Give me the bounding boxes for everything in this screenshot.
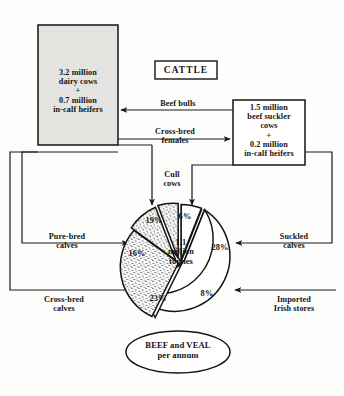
pie-label-23: 23% xyxy=(144,294,172,303)
cull-cows-suckler-arrow xyxy=(192,165,233,205)
pie-label-8: 8% xyxy=(196,289,218,298)
suckled-calves-label: Suckled calves xyxy=(255,232,333,250)
beef-bulls-label: Beef bulls xyxy=(133,99,223,108)
pie-label-16: 16% xyxy=(124,249,150,258)
dairy-herd-label: 3.2 million dairy cows + 0.7 million in-… xyxy=(38,68,118,114)
cross-bred-females-label: Cross-bred females xyxy=(130,127,220,145)
output-oval-label: BEEF and VEAL per annum xyxy=(126,341,230,360)
cull-cows-label: Cull cows xyxy=(149,170,195,188)
pure-bred-calves-path xyxy=(22,152,128,243)
pure-bred-calves-label: Pure-bred calves xyxy=(27,232,107,250)
suckler-herd-label: 1.5 million beef suckler cows + 0.2 mill… xyxy=(233,103,305,158)
pie-label-19: 19% xyxy=(140,216,168,225)
cattle-beef-flow-diagram: 3.2 million dairy cows + 0.7 million in-… xyxy=(0,0,344,396)
imported-irish-stores-label: Imported Irish stores xyxy=(249,295,339,313)
cattle-title-label: CATTLE xyxy=(155,65,217,76)
pie-label-28: 28% xyxy=(206,243,234,252)
pie-label-6: 6% xyxy=(172,212,198,221)
diagram-vector-layer xyxy=(0,0,344,396)
cross-bred-calves-label: Cross-bred calves xyxy=(21,295,107,313)
pie-center-label: 1.1 million tonnes xyxy=(152,238,210,266)
